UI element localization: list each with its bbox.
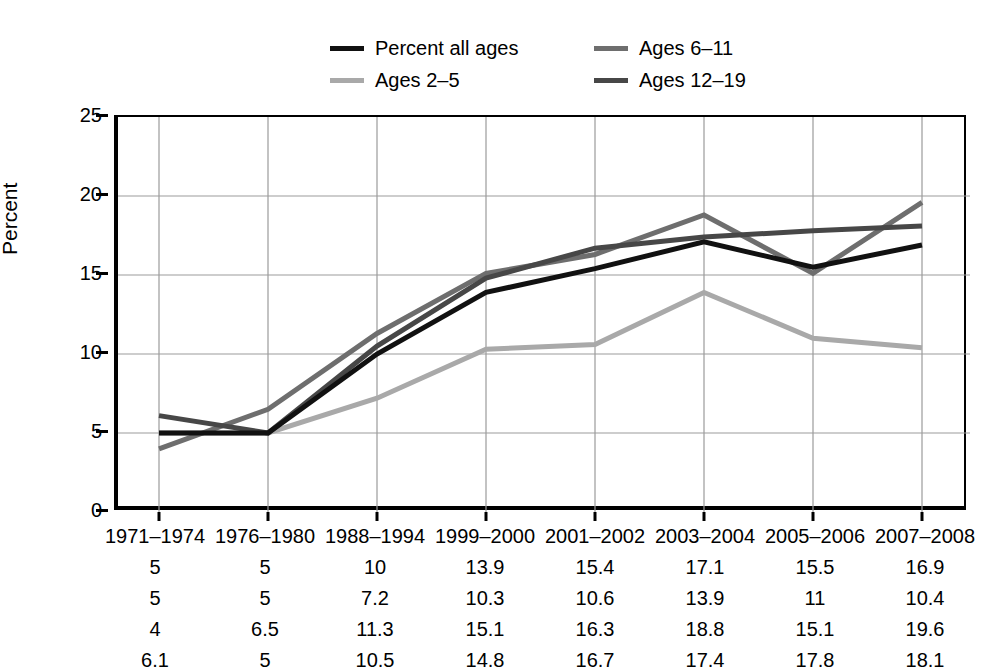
series-line [159,292,922,433]
x-axis-category-label: 2001–2002 [540,521,650,552]
table-cell-value: 17.1 [650,552,760,583]
legend-item-percent-all-ages[interactable]: Percent all ages [330,38,518,58]
y-tick-mark [96,193,108,196]
table-cell-value: 14.8 [430,645,540,670]
table-cell-value: 6.5 [210,614,320,645]
y-tick-mark [96,114,108,117]
x-axis-category-label: 2003–2004 [650,521,760,552]
legend-swatch-icon [594,78,628,83]
chart-figure: Percent all ages Ages 2–5 Ages 6–11 Ages… [0,0,996,670]
table-cell-value: 16.3 [540,614,650,645]
table-cell-value: 15.1 [760,614,870,645]
table-cell-value: 10 [320,552,430,583]
table-cell-value: 18.8 [650,614,760,645]
legend-swatch-icon [330,78,364,83]
table-cell-value: 13.9 [430,552,540,583]
series-line [159,202,922,448]
legend-swatch-icon [594,46,628,51]
table-cell-value: 19.6 [870,614,980,645]
legend-swatch-icon [330,46,364,51]
table-cell-value: 5 [210,583,320,614]
table-cell-value: 10.5 [320,645,430,670]
table-cell-value: 17.4 [650,645,760,670]
x-axis-category-label: 1976–1980 [210,521,320,552]
table-cell-value: 11 [760,583,870,614]
data-table: 1971–19741976–19801988–19941999–20002001… [100,521,980,670]
table-cell-value: 15.1 [430,614,540,645]
x-axis-category-label: 1971–1974 [100,521,210,552]
legend-label: Ages 6–11 [639,38,733,58]
table-cell-value: 4 [100,614,210,645]
y-tick-mark [96,430,108,433]
legend-label: Ages 12–19 [639,70,746,90]
table-cell-value: 15.4 [540,552,650,583]
legend-label: Percent all ages [375,38,518,58]
table-row: 46.511.315.116.318.815.119.6 [100,614,980,645]
table-cell-value: 5 [210,645,320,670]
table-header-row: 1971–19741976–19801988–19941999–20002001… [100,521,980,552]
x-axis-category-label: 1999–2000 [430,521,540,552]
table-cell-value: 5 [210,552,320,583]
plot-series-lines [118,117,970,512]
table-cell-value: 10.3 [430,583,540,614]
x-axis-category-label: 2005–2006 [760,521,870,552]
plot-area [114,115,966,510]
y-axis-labels: 0510152025 [44,115,102,510]
legend-item-ages-12-19[interactable]: Ages 12–19 [594,70,746,90]
y-axis-title: Percent [0,183,22,255]
table-cell-value: 18.1 [870,645,980,670]
table-cell-value: 17.8 [760,645,870,670]
table-cell-value: 11.3 [320,614,430,645]
series-line [159,226,922,433]
table-cell-value: 10.4 [870,583,980,614]
table-cell-value: 6.1 [100,645,210,670]
legend-item-ages-2-5[interactable]: Ages 2–5 [330,70,460,90]
x-axis-category-label: 1988–1994 [320,521,430,552]
x-axis-category-label: 2007–2008 [870,521,980,552]
legend-item-ages-6-11[interactable]: Ages 6–11 [594,38,733,58]
y-tick-mark [96,272,108,275]
table-cell-value: 10.6 [540,583,650,614]
table-row: 557.210.310.613.91110.4 [100,583,980,614]
y-tick-mark [96,351,108,354]
table-cell-value: 7.2 [320,583,430,614]
table-cell-value: 13.9 [650,583,760,614]
table-cell-value: 15.5 [760,552,870,583]
table-cell-value: 5 [100,583,210,614]
table-cell-value: 16.9 [870,552,980,583]
legend-label: Ages 2–5 [375,70,460,90]
table-row: 6.1510.514.816.717.417.818.1 [100,645,980,670]
table-row: 551013.915.417.115.516.9 [100,552,980,583]
y-tick-mark [96,509,108,512]
table-cell-value: 16.7 [540,645,650,670]
table-cell-value: 5 [100,552,210,583]
chart-legend: Percent all ages Ages 2–5 Ages 6–11 Ages… [330,36,750,98]
x-axis-data-table: 1971–19741976–19801988–19941999–20002001… [100,521,980,670]
